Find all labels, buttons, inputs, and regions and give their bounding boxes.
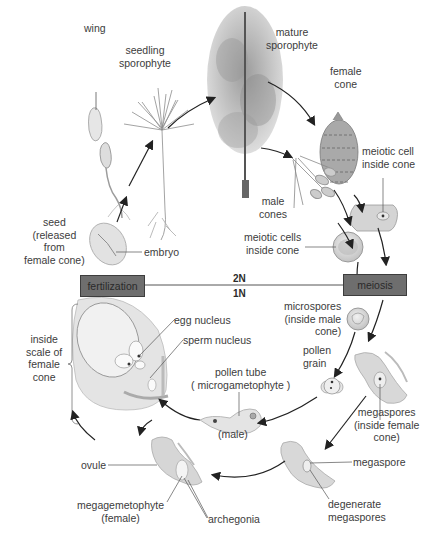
label-sperm-nucleus: sperm nucleus	[183, 334, 251, 347]
label-egg-nucleus: egg nucleus	[174, 314, 231, 327]
label-male-cones: male cones	[259, 195, 287, 220]
label-megaspore: megaspore	[353, 456, 406, 469]
female-cone-scale-illustration	[349, 178, 398, 231]
label-mature-sporophyte: mature sporophyte	[266, 26, 318, 51]
seedling-sporophyte-illustration	[124, 88, 194, 240]
label-wing: wing	[84, 22, 106, 35]
fertilization-box: fertilization	[80, 275, 145, 297]
label-megagametophyte: megagemetophyte (female)	[77, 499, 164, 524]
label-archegonia: archegonia	[208, 513, 260, 526]
label-degenerate-megaspores: degenerate megaspores	[328, 498, 386, 523]
label-male: (male)	[218, 428, 248, 441]
winged-seed-illustration	[89, 92, 131, 220]
pollen-grain-illustration	[321, 378, 343, 394]
microspores-illustration	[347, 308, 369, 330]
label-meiotic-cell-inside-cone: meiotic cell inside cone	[362, 145, 415, 170]
label-meiotic-cells-inside-cone: meiotic cells inside cone	[244, 231, 301, 256]
pollen-tube-illustration	[200, 392, 261, 433]
label-embryo: embryo	[144, 246, 179, 259]
label-pollen-tube: pollen tube ( microgametophyte )	[191, 366, 290, 391]
ploidy-1n: 1N	[233, 288, 246, 299]
label-pollen-grain: pollen grain	[303, 344, 331, 369]
seed-illustration	[82, 216, 142, 271]
meiosis-box: meiosis	[343, 274, 407, 296]
label-female-cone: female cone	[330, 65, 362, 90]
pine-life-cycle-diagram: wing seedling sporophyte mature sporophy…	[0, 0, 445, 549]
label-megaspores: megaspores (inside female cone)	[354, 406, 419, 444]
label-seed: seed (released from female cone)	[24, 216, 85, 266]
male-cone-sporangium-illustration	[305, 232, 363, 262]
label-inside-scale: inside scale of female cone	[26, 333, 62, 383]
fertilization-label: fertilization	[87, 280, 137, 292]
label-seedling-sporophyte: seedling sporophyte	[119, 44, 171, 69]
label-microspores: microspores (inside male cone)	[284, 300, 341, 338]
meiosis-label: meiosis	[357, 279, 393, 291]
label-ovule: ovule	[81, 459, 106, 472]
megaspore-illustration	[281, 441, 352, 499]
ploidy-2n: 2N	[233, 273, 246, 284]
